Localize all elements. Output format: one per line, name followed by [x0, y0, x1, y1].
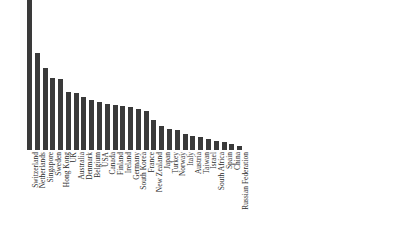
category-label-text: Belgium [94, 152, 101, 178]
category-label-text: Singapore [47, 152, 54, 182]
category-label: Russian Federation [242, 152, 249, 210]
category-label-text: China [234, 152, 241, 170]
category-label: Belgium [94, 152, 101, 178]
category-label: New Zealand [156, 152, 163, 192]
bar-rect [222, 142, 227, 150]
category-label-text: Russian Federation [242, 152, 249, 210]
category-label: Denmark [86, 152, 93, 180]
bar-rect [66, 92, 71, 150]
bar-rect [105, 104, 110, 150]
bar-rect [89, 100, 94, 150]
bar-rect [229, 144, 234, 150]
bar-rect [27, 0, 32, 150]
bar-rect [50, 78, 55, 150]
bar-rect [151, 120, 156, 150]
category-label-text: Denmark [86, 152, 93, 180]
bar-rect [167, 129, 172, 150]
bar-rect [74, 93, 79, 150]
bar-rect [81, 97, 86, 150]
bar-rect [120, 106, 125, 150]
bar-rect [159, 126, 164, 150]
bar-rect [237, 146, 242, 150]
bar-rect [113, 105, 118, 150]
bar-rect [144, 111, 149, 150]
bar-rect [183, 134, 188, 150]
category-label-text: New Zealand [156, 152, 163, 192]
bar-rect [190, 136, 195, 150]
category-label-text: Austria [195, 152, 202, 174]
bar-rect [175, 130, 180, 150]
bar-rect [97, 102, 102, 150]
chart-plot-area [27, 0, 418, 150]
bar-chart: SwitzerlandNetherlandsSingaporeSwedenHon… [0, 0, 418, 234]
category-label: Japan [164, 152, 171, 169]
category-label: Austria [195, 152, 202, 174]
bar-rect [35, 53, 40, 150]
category-label: Ireland [125, 152, 132, 173]
category-label: Spain [226, 152, 233, 169]
chart-category-labels: SwitzerlandNetherlandsSingaporeSwedenHon… [27, 152, 418, 234]
bar-rect [128, 107, 133, 150]
category-label: Singapore [47, 152, 54, 182]
bar-rect [214, 141, 219, 150]
category-label: Sweden [55, 152, 62, 176]
category-label-text: Ireland [125, 152, 132, 173]
bar-rect [136, 109, 141, 150]
bar-rect [43, 68, 48, 150]
category-label: China [234, 152, 241, 170]
category-label-text: Spain [226, 152, 233, 169]
category-label-text: Sweden [55, 152, 62, 176]
bar-rect [198, 137, 203, 150]
bar-rect [206, 139, 211, 150]
category-label-text: Japan [164, 152, 171, 169]
bar-rect [58, 79, 63, 150]
